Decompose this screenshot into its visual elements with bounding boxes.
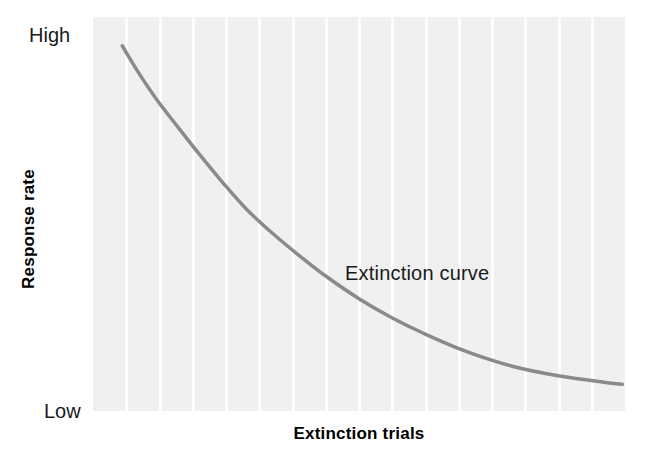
extinction-curve-figure: Extinction curve High Low Response rate …: [0, 0, 665, 454]
y-axis-tick-high: High: [29, 24, 70, 47]
curve-path: [122, 46, 622, 384]
y-axis-tick-low: Low: [44, 400, 81, 423]
extinction-curve-line: [93, 17, 625, 411]
extinction-curve-annotation: Extinction curve: [345, 262, 489, 285]
plot-area: Extinction curve: [93, 17, 625, 411]
y-axis-title: Response rate: [19, 139, 39, 319]
x-axis-title: Extinction trials: [93, 424, 625, 444]
